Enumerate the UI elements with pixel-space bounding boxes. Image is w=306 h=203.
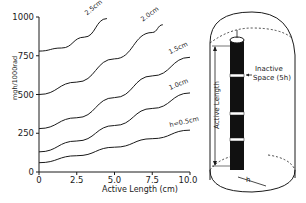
active-length-label: Active Length	[213, 81, 221, 129]
y-tick-250: 250	[18, 128, 34, 138]
curve-2.5cm	[39, 19, 107, 52]
curve-label: 1.0cm	[168, 77, 190, 92]
curves	[39, 19, 190, 163]
y-tick-750: 750	[18, 51, 34, 61]
curve-label: 2.5cm	[83, 0, 104, 17]
curve-label: h=0.5cm	[169, 115, 200, 129]
x-tick-7.5: 7.5	[145, 175, 159, 185]
dose-chart: 1000 750 500 250 0 0 2.5 5.0 7.5 10.0 Ac…	[0, 0, 200, 203]
y-axis-label: mgh/1000rad	[11, 56, 19, 100]
curve-1.5cm	[39, 57, 190, 128]
applicator-diagram: Active Length Inactive Space (5h) h	[200, 0, 306, 203]
y-tick-500: 500	[18, 90, 34, 100]
x-tick-10: 10.0	[179, 175, 198, 185]
curve-2.0cm	[39, 25, 163, 95]
space-label: Space (5h)	[253, 74, 291, 82]
inactive-label: Inactive	[255, 65, 283, 73]
x-tick-labels: 0 2.5 5.0 7.5 10.0	[36, 175, 197, 185]
curve-1.0cm	[39, 93, 190, 152]
h-dimension	[238, 177, 266, 186]
y-tick-1000: 1000	[12, 12, 34, 22]
y-tick-0: 0	[29, 167, 34, 177]
curve-label: 1.5cm	[167, 40, 189, 56]
curve-h0.5cm	[39, 130, 190, 163]
inactive-pointer-head	[246, 74, 249, 77]
base-dashed	[210, 155, 295, 170]
base-solid	[210, 170, 295, 192]
x-tick-0: 0	[36, 175, 41, 185]
dome-dashed	[210, 28, 292, 43]
x-axis-label: Active Length (cm)	[102, 185, 178, 194]
y-axis	[36, 17, 39, 172]
dome-outline	[210, 12, 295, 55]
curve-label: 2.0cm	[139, 5, 160, 23]
x-tick-5: 5.0	[108, 175, 122, 185]
x-tick-2.5: 2.5	[70, 175, 84, 185]
h-label: h	[246, 176, 250, 184]
source-rod	[230, 40, 244, 170]
